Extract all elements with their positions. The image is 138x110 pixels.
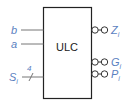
ulc-block xyxy=(44,8,92,99)
ulc-diagram: ULC b a 4 Si Zi Gi Pi xyxy=(0,0,138,110)
output-label-z: Zi xyxy=(110,24,120,38)
output-terminal-g-outer xyxy=(101,59,107,65)
input-label-b: b xyxy=(11,24,17,36)
output-terminal-z-outer xyxy=(101,27,107,33)
input-label-s: Si xyxy=(9,71,18,85)
block-label: ULC xyxy=(56,41,78,53)
output-terminal-p-outer xyxy=(101,71,107,77)
output-terminal-p-inner xyxy=(92,71,98,77)
output-terminal-z-inner xyxy=(92,27,98,33)
bus-width: 4 xyxy=(27,64,32,73)
input-label-a: a xyxy=(11,38,17,50)
output-label-p: Pi xyxy=(111,68,120,82)
output-terminal-g-inner xyxy=(92,59,98,65)
